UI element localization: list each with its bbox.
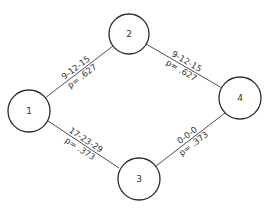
node-4: 4 xyxy=(219,77,261,119)
node-1: 1 xyxy=(8,90,50,132)
nodes: 1 2 3 4 xyxy=(8,14,261,200)
node-3-label: 3 xyxy=(136,174,142,184)
node-2: 2 xyxy=(109,14,149,54)
node-1-label: 1 xyxy=(26,106,32,116)
edge-labels: 9-12-15 p= .627 9-12-15 p= .627 17-23-29… xyxy=(59,48,210,163)
network-diagram: 9-12-15 p= .627 9-12-15 p= .627 17-23-29… xyxy=(0,0,272,217)
node-2-label: 2 xyxy=(126,29,132,39)
node-4-label: 4 xyxy=(237,93,243,103)
node-3: 3 xyxy=(118,158,160,200)
